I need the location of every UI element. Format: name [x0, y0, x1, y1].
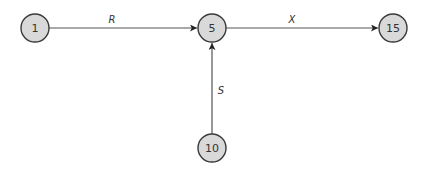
edge-1-to-5: R [49, 14, 197, 29]
node-1: 1 [21, 14, 49, 42]
node-label-5: 5 [209, 22, 216, 35]
edge-label-s: S [218, 85, 225, 96]
edge-5-to-15: X [226, 14, 378, 29]
edge-label-x: X [288, 14, 297, 25]
node-label-1: 1 [32, 22, 39, 35]
edge-10-to-5: S [212, 43, 225, 134]
node-15: 15 [379, 14, 407, 42]
network-diagram: R X S 1 5 15 10 [0, 0, 423, 169]
node-label-15: 15 [386, 22, 400, 35]
node-5: 5 [198, 14, 226, 42]
node-10: 10 [198, 134, 226, 162]
node-label-10: 10 [205, 142, 219, 155]
edge-label-r: R [109, 14, 116, 25]
